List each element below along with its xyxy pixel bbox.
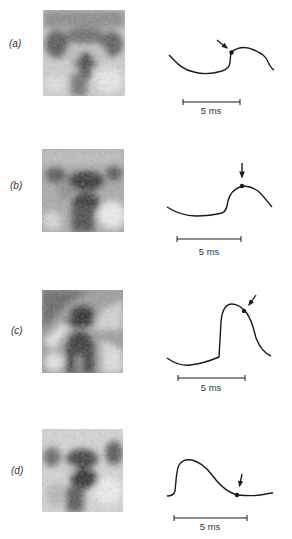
- scale-bar-label-b: 5 ms: [179, 246, 239, 257]
- panel-a: (a) 5 ms: [0, 0, 292, 135]
- panel-c: (c) 5 ms: [0, 270, 292, 405]
- marker-dot-c: [242, 309, 246, 313]
- scale-bar-c: [178, 375, 245, 381]
- trace-d: [0, 405, 292, 539]
- arrow-icon-a: [217, 40, 227, 48]
- marker-dot-d: [235, 493, 239, 497]
- scale-bar-label-d: 5 ms: [180, 521, 240, 532]
- panel-d: (d) 5 ms: [0, 405, 292, 539]
- marker-dot-a: [229, 50, 233, 54]
- panel-b: (b) 5 ms: [0, 135, 292, 270]
- scale-bar-label-c: 5 ms: [181, 382, 241, 393]
- marker-dot-b: [240, 184, 244, 188]
- trace-a: [0, 0, 292, 135]
- scale-bar-b: [177, 236, 241, 242]
- scale-bar-label-a: 5 ms: [181, 105, 241, 116]
- arrow-icon-c: [249, 295, 256, 305]
- trace-b: [0, 135, 292, 270]
- arrow-icon-d: [240, 474, 243, 486]
- trace-c: [0, 270, 292, 405]
